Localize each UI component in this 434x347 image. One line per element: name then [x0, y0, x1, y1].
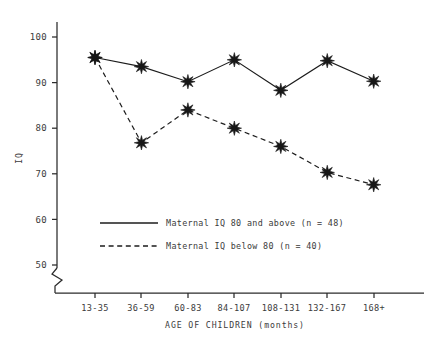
data-point-marker: [367, 178, 381, 192]
x-tick-label: 108-131: [262, 303, 300, 313]
chart-canvas: 100 90 80 70 60 50 IQ 13-35 36-59 60-83 …: [0, 0, 434, 347]
x-tick-marks: [95, 293, 374, 298]
x-tick-label: 36-59: [127, 303, 154, 313]
data-point-marker: [274, 83, 288, 97]
x-axis-title: AGE OF CHILDREN (months): [165, 320, 305, 330]
x-tick-label: 132-167: [308, 303, 346, 313]
data-point-marker: [320, 54, 334, 68]
x-tick-label: 168+: [363, 303, 385, 313]
x-tick-label: 60-83: [174, 303, 201, 313]
data-point-marker: [181, 103, 195, 117]
y-axis-break-icon: [52, 268, 62, 293]
x-tick-labels: 13-35 36-59 60-83 84-107 108-131 132-167…: [81, 303, 385, 313]
y-tick-label: 50: [36, 260, 47, 270]
series-markers-maternal-iq-below-80: [88, 50, 381, 192]
series-markers-maternal-iq-80-and-above: [88, 50, 381, 97]
data-point-marker: [134, 136, 148, 150]
x-tick-label: 13-35: [81, 303, 108, 313]
legend-label-solid: Maternal IQ 80 and above (n = 48): [166, 218, 344, 228]
iq-by-age-line-chart: 100 90 80 70 60 50 IQ 13-35 36-59 60-83 …: [0, 0, 434, 347]
y-tick-label: 80: [36, 123, 47, 133]
data-point-marker: [320, 165, 334, 179]
y-tick-label: 90: [36, 78, 47, 88]
y-tick-label: 60: [36, 215, 47, 225]
y-axis-title: IQ: [14, 152, 24, 164]
data-point-marker: [88, 50, 102, 64]
data-point-marker: [274, 139, 288, 153]
y-tick-label: 70: [36, 169, 47, 179]
data-point-marker: [181, 74, 195, 88]
data-point-marker: [134, 59, 148, 73]
data-point-marker: [227, 121, 241, 135]
data-point-marker: [367, 74, 381, 88]
data-point-marker: [227, 53, 241, 67]
legend-label-dashed: Maternal IQ below 80 (n = 40): [166, 241, 322, 251]
chart-legend: Maternal IQ 80 and above (n = 48) Matern…: [100, 218, 344, 251]
x-tick-label: 84-107: [218, 303, 251, 313]
y-tick-labels: 100 90 80 70 60 50: [30, 32, 47, 270]
y-tick-label: 100: [30, 32, 47, 42]
y-tick-marks: [52, 37, 57, 265]
